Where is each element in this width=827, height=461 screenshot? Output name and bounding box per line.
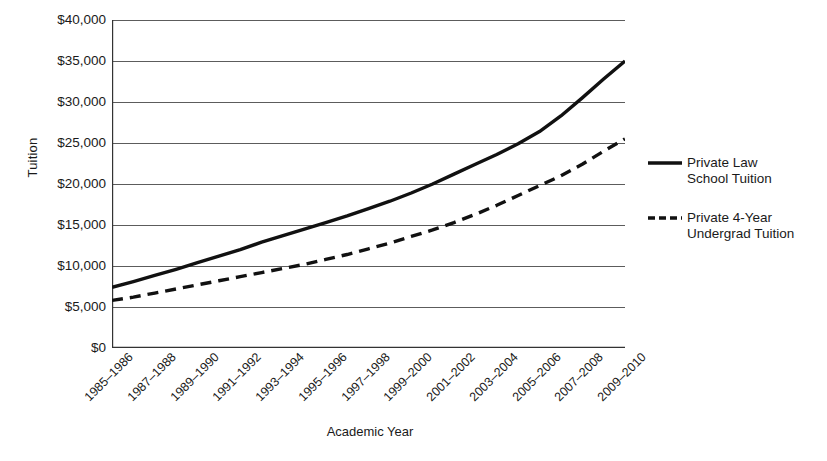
legend-item: Private Law School Tuition (648, 155, 827, 188)
legend-label: Private Law School Tuition (687, 155, 772, 188)
x-axis-tick-label: 1993–1994 (226, 350, 307, 431)
legend-label: Private 4-Year Undergrad Tuition (687, 210, 794, 243)
y-axis-tick-label: $10,000 (36, 259, 106, 273)
y-axis-tick-label: $30,000 (36, 95, 106, 109)
plot-svg (112, 20, 625, 348)
solid-line-icon (648, 155, 682, 171)
plot-area (112, 20, 625, 348)
legend-item: Private 4-Year Undergrad Tuition (648, 210, 827, 243)
y-axis-tick-label: $0 (36, 341, 106, 355)
x-axis-tick-label: 2009–2010 (568, 350, 649, 431)
dashed-line-icon (648, 210, 682, 226)
x-axis-tick-label: 2001–2002 (397, 350, 478, 431)
series-line-2 (112, 139, 625, 301)
y-axis-tick-label: $25,000 (36, 136, 106, 150)
y-axis-tick-label: $20,000 (36, 177, 106, 191)
y-axis-tick-label: $40,000 (36, 13, 106, 27)
x-axis-tick-label: 1989–1990 (141, 350, 222, 431)
y-axis-tick-label: $35,000 (36, 54, 106, 68)
x-axis-tick-label: 2007–2008 (526, 350, 607, 431)
x-axis-tick-label: 1997–1998 (312, 350, 393, 431)
x-axis-tick-label: 2005–2006 (483, 350, 564, 431)
tuition-line-chart: Tuition $40,000$35,000$30,000$25,000$20,… (0, 0, 827, 461)
y-axis-tick-label: $15,000 (36, 218, 106, 232)
x-axis-tick-label: 1995–1996 (269, 350, 350, 431)
x-axis-tick-label: 1999–2000 (355, 350, 436, 431)
x-axis-tick-label: 1991–1992 (184, 350, 265, 431)
chart-legend: Private Law School TuitionPrivate 4-Year… (648, 155, 827, 265)
x-axis-tick-label: 1987–1988 (98, 350, 179, 431)
y-axis-tick-label: $5,000 (36, 300, 106, 314)
x-axis-tick-label: 2003–2004 (440, 350, 521, 431)
series-line-1 (112, 61, 625, 287)
x-axis-title: Academic Year (250, 424, 490, 439)
